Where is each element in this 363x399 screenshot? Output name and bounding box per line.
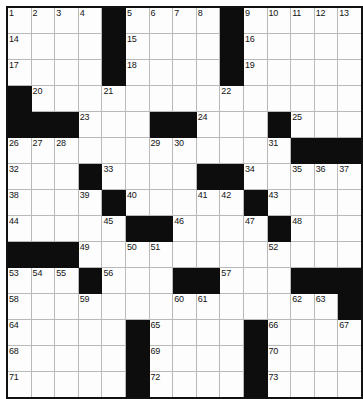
letter-cell[interactable] [243,242,267,268]
letter-cell[interactable]: 9 [243,7,267,34]
letter-cell[interactable]: 62 [291,294,315,320]
letter-cell[interactable] [31,346,55,372]
letter-cell[interactable]: 7 [173,7,197,34]
letter-cell[interactable]: 5 [125,7,149,34]
letter-cell[interactable] [267,268,291,294]
letter-cell[interactable]: 16 [243,34,267,60]
letter-cell[interactable] [31,294,55,320]
letter-cell[interactable]: 60 [173,294,197,320]
letter-cell[interactable] [338,372,362,399]
letter-cell[interactable] [173,34,197,60]
letter-cell[interactable] [55,372,79,399]
letter-cell[interactable] [102,112,126,138]
letter-cell[interactable]: 38 [7,190,31,216]
letter-cell[interactable] [220,138,244,164]
letter-cell[interactable] [78,86,102,112]
letter-cell[interactable]: 6 [149,7,173,34]
letter-cell[interactable] [338,216,362,242]
letter-cell[interactable] [196,216,220,242]
letter-cell[interactable] [173,242,197,268]
letter-cell[interactable] [78,320,102,346]
letter-cell[interactable]: 43 [267,190,291,216]
letter-cell[interactable]: 42 [220,190,244,216]
letter-cell[interactable]: 33 [102,164,126,190]
letter-cell[interactable]: 40 [125,190,149,216]
letter-cell[interactable]: 46 [173,216,197,242]
letter-cell[interactable] [173,86,197,112]
letter-cell[interactable] [314,112,338,138]
letter-cell[interactable] [314,320,338,346]
letter-cell[interactable] [314,242,338,268]
letter-cell[interactable]: 69 [149,346,173,372]
letter-cell[interactable] [102,372,126,399]
letter-cell[interactable] [338,34,362,60]
letter-cell[interactable] [267,60,291,86]
letter-cell[interactable] [55,164,79,190]
letter-cell[interactable] [196,86,220,112]
letter-cell[interactable] [173,190,197,216]
letter-cell[interactable]: 21 [102,86,126,112]
letter-cell[interactable] [102,138,126,164]
letter-cell[interactable]: 66 [267,320,291,346]
letter-cell[interactable] [291,190,315,216]
letter-cell[interactable]: 54 [31,268,55,294]
letter-cell[interactable]: 1 [7,7,31,34]
letter-cell[interactable] [314,372,338,399]
letter-cell[interactable] [31,190,55,216]
letter-cell[interactable]: 57 [220,268,244,294]
letter-cell[interactable] [149,60,173,86]
letter-cell[interactable]: 56 [102,268,126,294]
letter-cell[interactable] [267,294,291,320]
letter-cell[interactable] [291,346,315,372]
letter-cell[interactable]: 73 [267,372,291,399]
letter-cell[interactable] [243,112,267,138]
letter-cell[interactable]: 17 [7,60,31,86]
letter-cell[interactable]: 35 [291,164,315,190]
letter-cell[interactable] [220,216,244,242]
letter-cell[interactable]: 10 [267,7,291,34]
letter-cell[interactable] [220,242,244,268]
letter-cell[interactable] [125,138,149,164]
letter-cell[interactable]: 44 [7,216,31,242]
letter-cell[interactable] [31,60,55,86]
letter-cell[interactable]: 22 [220,86,244,112]
letter-cell[interactable] [31,320,55,346]
letter-cell[interactable] [102,242,126,268]
letter-cell[interactable]: 11 [291,7,315,34]
letter-cell[interactable] [314,216,338,242]
letter-cell[interactable] [220,320,244,346]
letter-cell[interactable] [338,86,362,112]
letter-cell[interactable]: 4 [78,7,102,34]
letter-cell[interactable] [267,86,291,112]
letter-cell[interactable]: 48 [291,216,315,242]
letter-cell[interactable]: 15 [125,34,149,60]
letter-cell[interactable] [220,346,244,372]
letter-cell[interactable]: 63 [314,294,338,320]
letter-cell[interactable]: 64 [7,320,31,346]
letter-cell[interactable]: 28 [55,138,79,164]
letter-cell[interactable]: 14 [7,34,31,60]
letter-cell[interactable] [338,242,362,268]
letter-cell[interactable]: 45 [102,216,126,242]
letter-cell[interactable]: 23 [78,112,102,138]
letter-cell[interactable] [55,86,79,112]
letter-cell[interactable]: 65 [149,320,173,346]
letter-cell[interactable]: 30 [173,138,197,164]
letter-cell[interactable] [243,86,267,112]
letter-cell[interactable]: 50 [125,242,149,268]
letter-cell[interactable] [149,190,173,216]
letter-cell[interactable] [78,60,102,86]
letter-cell[interactable]: 29 [149,138,173,164]
letter-cell[interactable]: 32 [7,164,31,190]
letter-cell[interactable] [125,294,149,320]
letter-cell[interactable]: 68 [7,346,31,372]
letter-cell[interactable] [220,294,244,320]
letter-cell[interactable] [31,164,55,190]
letter-cell[interactable] [78,372,102,399]
letter-cell[interactable] [125,112,149,138]
letter-cell[interactable] [338,346,362,372]
crossword-grid[interactable]: 1234567891011121314151617181920212223242… [6,6,363,399]
letter-cell[interactable] [196,346,220,372]
letter-cell[interactable] [338,60,362,86]
letter-cell[interactable]: 34 [243,164,267,190]
